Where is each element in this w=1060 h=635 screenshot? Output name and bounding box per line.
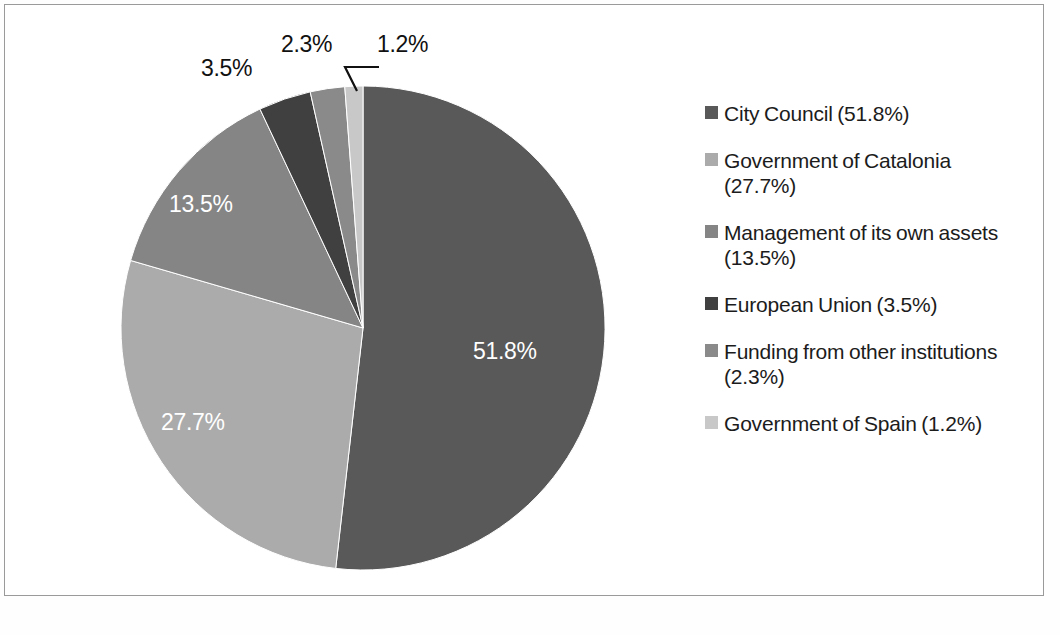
legend-item[interactable]: European Union (3.5%) [705,292,1015,317]
legend-item-label: Management of its own assets (13.5%) [724,220,1015,270]
slice-label-own-assets: 13.5% [169,191,233,218]
slice-callout-government-of-spain: 1.2% [377,31,428,58]
legend-item[interactable]: City Council (51.8%) [705,101,1015,126]
legend-item-label: Funding from other institutions (2.3%) [724,339,1015,389]
legend-swatch-icon [705,225,718,238]
legend-item[interactable]: Management of its own assets (13.5%) [705,220,1015,270]
chart-legend: City Council (51.8%)Government of Catalo… [705,101,1015,458]
legend-swatch-icon [705,297,718,310]
legend-item-label: Government of Catalonia (27.7%) [724,148,1015,198]
slice-callout-european-union: 3.5% [201,55,252,82]
pie-chart-plot-area: 51.8% 27.7% 13.5% 3.5% 2.3% 1.2% City Co… [5,5,1043,595]
legend-swatch-icon [705,416,718,429]
chart-frame: 51.8% 27.7% 13.5% 3.5% 2.3% 1.2% City Co… [4,4,1044,596]
legend-swatch-icon [705,153,718,166]
legend-item[interactable]: Government of Spain (1.2%) [705,411,1015,436]
slice-callout-other-funding: 2.3% [281,31,332,58]
slice-label-catalonia: 27.7% [161,409,225,436]
legend-item[interactable]: Funding from other institutions (2.3%) [705,339,1015,389]
pie-slice-group [121,86,605,570]
page-canvas: 51.8% 27.7% 13.5% 3.5% 2.3% 1.2% City Co… [0,0,1060,635]
legend-swatch-icon [705,106,718,119]
pie-slice[interactable] [336,86,605,570]
legend-item-label: European Union (3.5%) [724,292,937,317]
slice-label-city-council: 51.8% [473,338,537,365]
legend-item[interactable]: Government of Catalonia (27.7%) [705,148,1015,198]
legend-item-label: City Council (51.8%) [724,101,909,126]
legend-swatch-icon [705,344,718,357]
legend-item-label: Government of Spain (1.2%) [724,411,982,436]
